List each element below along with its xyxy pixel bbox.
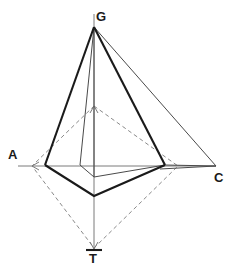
tetrahedron-diagram	[0, 0, 238, 276]
bold-base-polygon	[45, 165, 165, 196]
bold-base-polygon-group	[45, 165, 165, 196]
figure-canvas: G A C T	[0, 0, 238, 276]
vertex-label-c: C	[214, 171, 223, 184]
dashed-diamond-group	[32, 106, 178, 248]
vertex-label-g: G	[96, 10, 106, 23]
vertex-label-t: T	[89, 252, 97, 265]
dashed-diamond	[32, 106, 178, 248]
vertex-label-a: A	[8, 148, 17, 161]
